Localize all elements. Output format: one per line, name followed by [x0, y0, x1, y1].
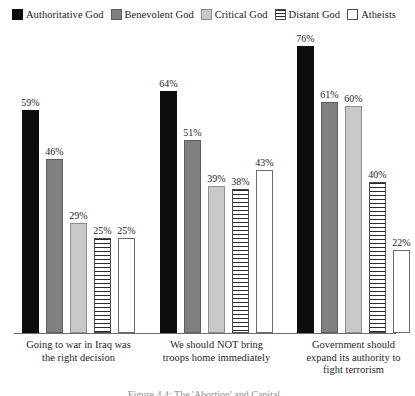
bar-atheists[interactable] [256, 170, 273, 333]
bar-critical-god[interactable] [70, 223, 87, 333]
bar-value-label: 25% [93, 225, 111, 236]
chart-legend: Authoritative God Benevolent God Critica… [0, 9, 408, 20]
bar-benevolent-god[interactable] [184, 140, 201, 333]
solid-black-swatch-icon [12, 9, 23, 20]
bar-authoritative-god[interactable] [160, 91, 177, 333]
bar-slot-distant-god: 38% [232, 30, 249, 333]
category-label: We should NOT bringtroops home immediate… [138, 339, 295, 364]
bar-value-label: 51% [183, 127, 201, 138]
bar-slot-benevolent-god: 61% [321, 30, 338, 333]
legend-item-authoritative-god: Authoritative God [12, 9, 104, 20]
empty-swatch-icon [347, 9, 358, 20]
bar-value-label: 46% [45, 146, 63, 157]
bar-slot-authoritative-god: 59% [22, 30, 39, 333]
legend-item-label: Authoritative God [26, 9, 104, 20]
bar-authoritative-god[interactable] [22, 110, 39, 333]
bar-distant-god[interactable] [369, 182, 386, 333]
bar-slot-distant-god: 25% [94, 30, 111, 333]
bar-slot-atheists: 25% [118, 30, 135, 333]
legend-item-benevolent-god: Benevolent God [111, 9, 194, 20]
chart-baseline-axis [14, 333, 396, 334]
category-label: Going to war in Iraq wasthe right decisi… [0, 339, 157, 364]
bar-slot-critical-god: 39% [208, 30, 225, 333]
bar-atheists[interactable] [393, 250, 410, 333]
bar-value-label: 59% [21, 97, 39, 108]
bar-value-label: 29% [69, 210, 87, 221]
category-label-line: the right decision [0, 352, 157, 365]
legend-item-label: Atheists [361, 9, 396, 20]
bar-group: 76%61%60%40%22% [297, 30, 410, 333]
bar-slot-authoritative-god: 76% [297, 30, 314, 333]
striped-swatch-icon [275, 9, 286, 20]
bar-value-label: 64% [159, 78, 177, 89]
category-axis-labels: Going to war in Iraq wasthe right decisi… [0, 339, 408, 384]
category-label-line: Government should [275, 339, 415, 352]
bar-slot-critical-god: 60% [345, 30, 362, 333]
bar-slot-benevolent-god: 51% [184, 30, 201, 333]
category-label-line: troops home immediately [138, 352, 295, 365]
legend-item-label: Critical God [215, 9, 268, 20]
figure-caption: Figure 4.4: The 'Abortion' and Capital [0, 389, 408, 396]
bar-authoritative-god[interactable] [297, 46, 314, 333]
category-label-line: Going to war in Iraq was [0, 339, 157, 352]
category-label-line: fight terrorism [275, 364, 415, 377]
bar-group: 64%51%39%38%43% [160, 30, 273, 333]
legend-item-label: Benevolent God [125, 9, 194, 20]
bar-value-label: 61% [320, 89, 338, 100]
bar-atheists[interactable] [118, 238, 135, 333]
bar-value-label: 22% [392, 237, 410, 248]
bar-value-label: 25% [117, 225, 135, 236]
legend-item-atheists: Atheists [347, 9, 396, 20]
bar-chart-plot-area: 59%46%29%25%25%64%51%39%38%43%76%61%60%4… [0, 30, 408, 334]
solid-gray-swatch-icon [111, 9, 122, 20]
bar-slot-distant-god: 40% [369, 30, 386, 333]
bar-value-label: 38% [231, 176, 249, 187]
light-gray-swatch-icon [201, 9, 212, 20]
bar-distant-god[interactable] [232, 189, 249, 333]
legend-item-label: Distant God [289, 9, 341, 20]
bar-critical-god[interactable] [208, 186, 225, 333]
bar-value-label: 60% [344, 93, 362, 104]
bar-slot-authoritative-god: 64% [160, 30, 177, 333]
category-label-line: expand its authority to [275, 352, 415, 365]
bar-value-label: 43% [255, 157, 273, 168]
bar-value-label: 76% [296, 33, 314, 44]
bar-slot-benevolent-god: 46% [46, 30, 63, 333]
bar-distant-god[interactable] [94, 238, 111, 333]
bar-value-label: 40% [368, 169, 386, 180]
category-label: Government shouldexpand its authority to… [275, 339, 415, 377]
bar-critical-god[interactable] [345, 106, 362, 333]
legend-item-distant-god: Distant God [275, 9, 341, 20]
bar-group: 59%46%29%25%25% [22, 30, 135, 333]
bar-slot-critical-god: 29% [70, 30, 87, 333]
legend-item-critical-god: Critical God [201, 9, 268, 20]
bar-benevolent-god[interactable] [46, 159, 63, 333]
category-label-line: We should NOT bring [138, 339, 295, 352]
bar-slot-atheists: 22% [393, 30, 410, 333]
bar-benevolent-god[interactable] [321, 102, 338, 333]
bar-value-label: 39% [207, 173, 225, 184]
bar-slot-atheists: 43% [256, 30, 273, 333]
